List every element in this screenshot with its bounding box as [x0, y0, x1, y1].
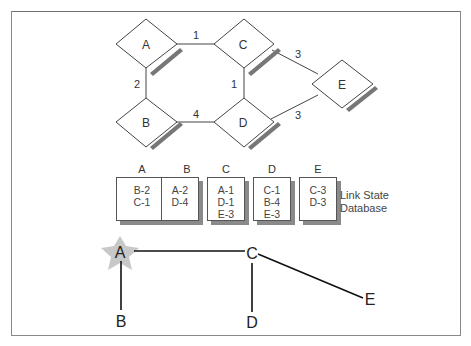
router-d — [214, 98, 281, 150]
db-table-d: C-1 B-4 E-3 — [253, 177, 291, 221]
caption-line-1: Link State — [340, 189, 389, 202]
db-entry: D-4 — [162, 196, 198, 208]
cost-b-d: 4 — [193, 108, 199, 120]
tree-node-c: C — [246, 245, 258, 262]
tree-edge-c-e — [258, 254, 363, 298]
caption-line-2: Database — [340, 202, 389, 215]
db-entry: D-1 — [208, 196, 244, 208]
router-d-label: D — [239, 116, 248, 130]
cost-a-c: 1 — [193, 29, 199, 41]
db-entry: A-2 — [162, 184, 198, 196]
db-entry: E-3 — [254, 208, 290, 220]
tree-node-b: B — [116, 313, 127, 330]
tree-node-a: A — [115, 244, 126, 261]
db-entry: C-1 — [117, 196, 167, 208]
db-entry: C-3 — [300, 184, 336, 196]
db-entry: A-1 — [208, 184, 244, 196]
db-table-b: A-2 D-4 — [161, 177, 199, 221]
db-label-b: B — [161, 163, 213, 175]
db-label-c: C — [207, 163, 245, 175]
link-state-database-caption: Link State Database — [340, 189, 389, 215]
db-label-e: E — [299, 163, 337, 175]
db-entry: D-3 — [300, 196, 336, 208]
router-c — [214, 19, 281, 76]
spf-tree-edges — [121, 251, 363, 312]
cost-a-b: 2 — [134, 78, 140, 90]
cost-d-e: 3 — [295, 109, 301, 121]
db-entry: C-1 — [254, 184, 290, 196]
router-c-label: C — [239, 38, 248, 52]
db-label-d: D — [253, 163, 291, 175]
cost-c-d: 1 — [231, 78, 237, 90]
db-table-c: A-1 D-1 E-3 — [207, 177, 245, 221]
router-b-label: B — [142, 116, 150, 130]
db-entry: B-2 — [117, 184, 167, 196]
db-entry: E-3 — [208, 208, 244, 220]
db-entry: B-4 — [254, 196, 290, 208]
db-table-e: C-3 D-3 — [299, 177, 337, 221]
tree-node-e: E — [365, 291, 376, 308]
router-e-label: E — [338, 78, 346, 92]
cost-c-e: 3 — [295, 48, 301, 60]
router-a-label: A — [142, 38, 150, 52]
tree-node-d: D — [246, 314, 258, 331]
